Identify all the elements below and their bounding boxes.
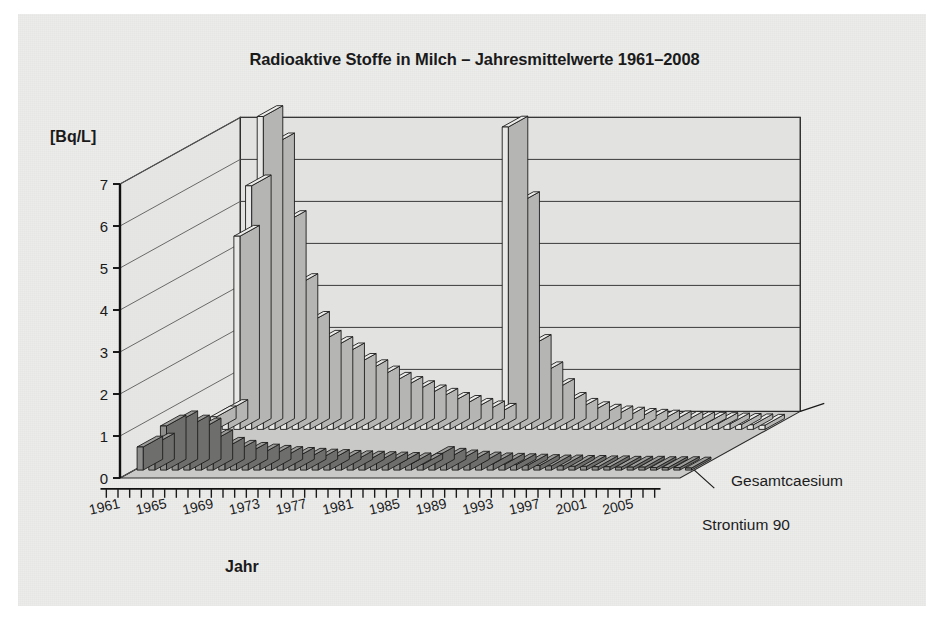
chart-canvas: 0123456719611965196919731977198119851989… [0,0,949,642]
y-tick-label: 5 [100,260,108,277]
series-label-gesamtcaesium: Gesamtcaesium [731,472,843,490]
y-tick-label: 7 [100,176,108,193]
figure-root: Radioaktive Stoffe in Milch – Jahresmitt… [0,0,949,642]
y-tick-label: 6 [100,218,108,235]
x-tick-label: 2005 [601,495,635,518]
x-tick-label: 1973 [227,495,261,518]
y-tick-label: 1 [100,428,108,445]
y-tick-label: 4 [100,302,108,319]
series-label-strontium-90: Strontium 90 [702,516,790,534]
x-tick-label: 1969 [181,495,215,518]
x-tick-label: 1977 [274,495,308,518]
x-tick-label: 1993 [461,495,495,518]
x-tick-label: 1985 [367,495,401,518]
y-tick-label: 2 [100,386,108,403]
x-tick-label: 1961 [87,495,121,518]
x-tick-label: 1965 [134,495,168,518]
y-tick-label: 3 [100,344,108,361]
x-tick-label: 1997 [507,495,541,518]
x-tick-label: 2001 [554,495,588,518]
y-tick-label: 0 [100,470,108,487]
x-tick-label: 1989 [414,495,448,518]
x-tick-label: 1981 [321,495,355,518]
